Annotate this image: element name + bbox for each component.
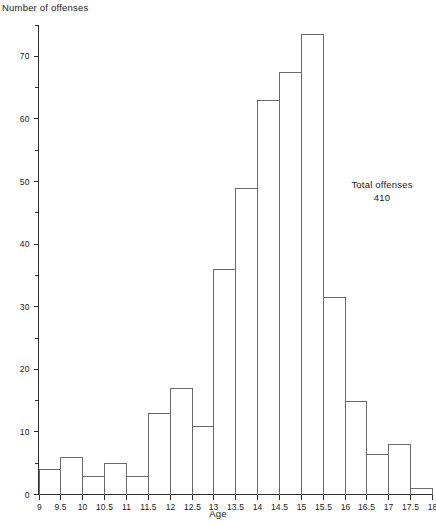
y-tick-label: 0 [25, 490, 30, 500]
annotation-label: Total offenses [330, 178, 434, 191]
annotation-value: 410 [330, 191, 434, 204]
x-axis-title: Age [0, 508, 436, 519]
y-tick-label: 10 [20, 427, 30, 437]
y-axis-ticks: 010203040506070 [20, 25, 39, 500]
y-tick-label: 60 [20, 114, 30, 124]
plot-area: 010203040506070 99.51010.51111.51212.513… [0, 0, 436, 526]
histogram-chart: Number of offenses 010203040506070 99.51… [0, 0, 436, 526]
total-offenses-annotation: Total offenses 410 [330, 178, 434, 204]
y-tick-label: 30 [20, 302, 30, 312]
y-tick-label: 70 [20, 51, 30, 61]
y-tick-label: 20 [20, 364, 30, 374]
y-tick-label: 50 [20, 177, 30, 187]
histogram-bars [40, 35, 433, 495]
y-tick-label: 40 [20, 239, 30, 249]
